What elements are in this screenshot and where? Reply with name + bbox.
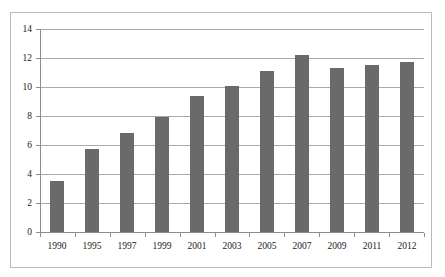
x-tick-mark-1995 (110, 233, 111, 237)
x-axis-label-2005: 2005 (247, 241, 287, 252)
bars-plot-region (41, 29, 424, 232)
x-axis-label-1995: 1995 (72, 241, 112, 252)
bar-2011 (365, 65, 379, 232)
x-axis-label-2003: 2003 (212, 241, 252, 252)
x-tick-mark-2001 (215, 233, 216, 237)
x-tick-mark-1999 (180, 233, 181, 237)
x-axis-label-2007: 2007 (282, 241, 322, 252)
x-axis-label-2011: 2011 (352, 241, 392, 252)
x-axis-label-1997: 1997 (107, 241, 147, 252)
x-tick-mark-2003 (249, 233, 250, 237)
x-axis-label-2009: 2009 (317, 241, 357, 252)
x-tick-mark-2005 (284, 233, 285, 237)
x-axis-label-2012: 2012 (387, 241, 427, 252)
x-tick-mark-2007 (319, 233, 320, 237)
bar-1999 (155, 117, 169, 232)
x-tick-mark-1997 (145, 233, 146, 237)
x-tick-mark-2009 (354, 233, 355, 237)
bar-2005 (260, 71, 274, 232)
bar-2009 (330, 68, 344, 232)
x-axis-label-2001: 2001 (177, 241, 217, 252)
bar-chart-figure: 02468101214 1990199519971999200120032005… (0, 0, 445, 277)
x-tick-mark-origin (40, 233, 41, 237)
x-tick-mark-1990 (75, 233, 76, 237)
bar-1997 (120, 133, 134, 232)
x-axis-label-1990: 1990 (37, 241, 77, 252)
bar-2007 (295, 55, 309, 232)
bars-group (0, 0, 445, 233)
bar-2001 (190, 96, 204, 232)
bar-2012 (400, 62, 414, 232)
bar-1995 (85, 149, 99, 232)
bar-2003 (225, 86, 239, 232)
x-tick-mark-2011 (389, 233, 390, 237)
x-tick-mark-2012 (424, 233, 425, 237)
x-axis-label-1999: 1999 (142, 241, 182, 252)
bar-1990 (50, 181, 64, 232)
